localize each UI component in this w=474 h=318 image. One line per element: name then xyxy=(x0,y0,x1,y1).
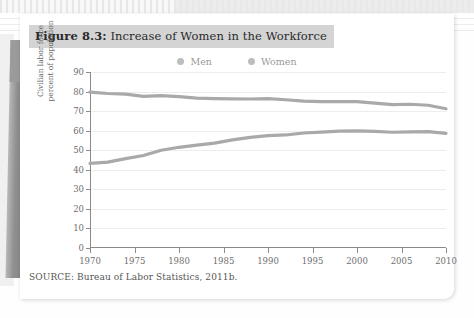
x-tick-label: 1990 xyxy=(257,256,279,266)
series-line-women xyxy=(90,131,446,163)
figure-card: Figure 8.3: Increase of Women in the Wor… xyxy=(20,14,454,299)
legend-item-women: Women xyxy=(248,56,297,67)
figure-title: Figure 8.3: Increase of Women in the Wor… xyxy=(29,25,334,48)
y-tick-label: 30 xyxy=(73,184,84,194)
y-axis-ticks: 0102030405060708090 xyxy=(60,72,90,248)
legend-label-men: Men xyxy=(190,56,211,67)
plot-region: Civilian labor force percent of populati… xyxy=(34,72,446,268)
x-tick-mark xyxy=(179,248,180,253)
y-axis-title: Civilian labor force percent of populati… xyxy=(36,2,58,120)
legend-label-women: Women xyxy=(261,56,297,67)
source-note: SOURCE: Bureau of Labor Statistics, 2011… xyxy=(29,272,237,282)
x-tick-mark xyxy=(446,248,447,253)
y-tick-label: 10 xyxy=(73,223,84,233)
x-tick-mark xyxy=(357,248,358,253)
x-tick-mark xyxy=(135,248,136,253)
y-tick-label: 20 xyxy=(73,204,84,214)
legend-dot-icon-women xyxy=(248,58,255,65)
x-tick-mark xyxy=(224,248,225,253)
y-tick-label: 0 xyxy=(79,243,84,253)
x-tick-mark xyxy=(90,248,91,253)
x-tick-label: 2005 xyxy=(391,256,413,266)
y-tick-label: 70 xyxy=(73,106,84,116)
x-tick-mark xyxy=(268,248,269,253)
y-tick-label: 60 xyxy=(73,126,84,136)
x-tick-label: 1970 xyxy=(79,256,101,266)
x-tick-mark xyxy=(402,248,403,253)
x-tick-label: 1980 xyxy=(168,256,190,266)
x-tick-label: 1975 xyxy=(124,256,146,266)
x-tick-label: 2000 xyxy=(346,256,368,266)
legend-item-men: Men xyxy=(177,56,211,67)
axes-box: 197019751980198519901995200020052010 xyxy=(90,72,446,248)
x-tick-label: 1995 xyxy=(302,256,324,266)
y-axis-title-line1: Civilian labor force xyxy=(36,2,46,120)
x-tick-label: 2010 xyxy=(435,256,457,266)
y-axis-title-line2: percent of population xyxy=(46,2,56,120)
y-tick-label: 80 xyxy=(73,87,84,97)
x-tick-label: 1985 xyxy=(213,256,235,266)
series-line-men xyxy=(90,92,446,109)
y-tick-label: 40 xyxy=(73,165,84,175)
y-tick-label: 50 xyxy=(73,145,84,155)
y-tick-label: 90 xyxy=(73,67,84,77)
series-lines xyxy=(90,72,446,248)
legend-dot-icon-men xyxy=(177,58,184,65)
x-tick-mark xyxy=(313,248,314,253)
chart-legend: Men Women xyxy=(20,56,454,67)
figure-title-text: Increase of Women in the Workforce xyxy=(107,29,327,43)
